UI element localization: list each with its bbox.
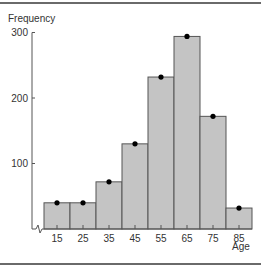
y-tick-label: 100 <box>11 158 28 169</box>
bar-marker <box>184 34 189 39</box>
x-tick-label: 55 <box>155 233 167 244</box>
y-tick-label: 300 <box>11 27 28 38</box>
bar-35 <box>96 182 122 229</box>
x-tick-label: 45 <box>129 233 141 244</box>
bar-marker <box>132 141 137 146</box>
x-tick-label: 15 <box>51 233 63 244</box>
bar-55 <box>148 77 174 229</box>
x-tick-label: 65 <box>181 233 193 244</box>
bar-marker <box>210 114 215 119</box>
bars <box>44 34 252 229</box>
bar-marker <box>80 200 85 205</box>
x-tick-label: 85 <box>233 233 245 244</box>
bar-marker <box>106 179 111 184</box>
y-axis: 100200300 <box>11 27 35 229</box>
bar-marker <box>158 74 163 79</box>
bar-marker <box>54 200 59 205</box>
bar-65 <box>174 36 200 229</box>
histogram-chart: Frequency Age 100200300 1525354555657585 <box>0 0 261 267</box>
x-tick-label: 25 <box>77 233 89 244</box>
x-tick-label: 35 <box>103 233 115 244</box>
bar-75 <box>200 116 226 229</box>
bar-45 <box>122 144 148 229</box>
bar-marker <box>236 205 241 210</box>
y-axis-label: Frequency <box>8 13 55 24</box>
y-tick-label: 200 <box>11 93 28 104</box>
x-tick-label: 75 <box>207 233 219 244</box>
